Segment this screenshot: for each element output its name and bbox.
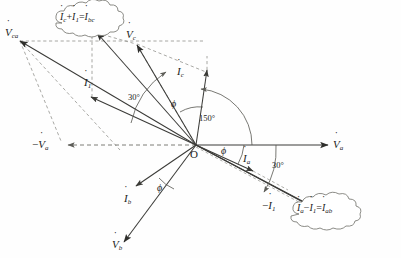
label-Ib: Ib [124,192,131,204]
label-Ic-sub: c [181,71,184,79]
angle-phi-ia-label: ϕ [221,145,226,156]
label-Vc-sub: c [133,34,136,42]
angle-phi-ib-label: ϕ [157,182,162,193]
cloud-top-s1: c [63,16,66,24]
vector-Vb [124,145,196,242]
vector-Ib [136,145,196,186]
vector-Ic [196,70,207,145]
phasor-vector-svg [0,0,401,258]
label-Ib-sub: b [128,198,132,206]
label-Ia: Ia [243,152,250,164]
cloud-bottom-s2: 1 [313,207,317,215]
label-Ic: Ic [177,65,184,77]
label-negI1-sub: 1 [272,205,276,213]
label-Vca: Vca [5,26,18,38]
label-I1: I1 [84,76,91,88]
cloud-top-text: Ic+I1=Ibc [60,11,95,22]
label-Vc-base: V [126,28,133,40]
vector-Vca [20,41,196,145]
label-Vca-sub: ca [12,32,19,40]
cloud-top-s2: 1 [75,16,79,24]
vector-Vc [137,45,196,145]
cloud-top-s3: bc [88,16,95,24]
label-Va: Va [333,138,343,150]
angle-150-label: 150° [199,113,215,123]
label-negVa-sub: a [45,144,49,152]
cloud-bottom-s1: a [300,207,304,215]
label-negVa: −Va [32,138,48,150]
label-Vb: Vb [112,238,122,250]
label-Va-sub: a [340,144,344,152]
angle-30-bottom-label: 30° [272,160,284,170]
label-Vca-base: V [5,26,12,38]
label-I1-sub: 1 [88,82,92,90]
cloud-bottom-s3: ab [325,207,332,215]
angle-30-top-label: 30° [128,92,140,102]
label-negVa-base: V [38,138,45,150]
label-Vb-base: V [112,238,119,250]
phasor-diagram-canvas: Va Vb Vc Vca −Va Ia Ib Ic I1 −I1 O 150° … [0,0,401,258]
origin-label: O [190,148,198,160]
angle-phi-ic-label: ϕ [171,98,176,109]
vector-I1 [91,97,196,145]
label-Vb-sub: b [119,244,123,252]
label-Ia-sub: a [247,158,251,166]
arc-phi-ic [180,107,203,112]
cloud-bottom-text: Ia−I1=Iab [297,202,332,213]
label-negI1: −I1 [262,199,275,211]
label-Va-base: V [333,138,340,150]
label-Vc: Vc [126,28,136,40]
construction-lines [20,33,207,150]
